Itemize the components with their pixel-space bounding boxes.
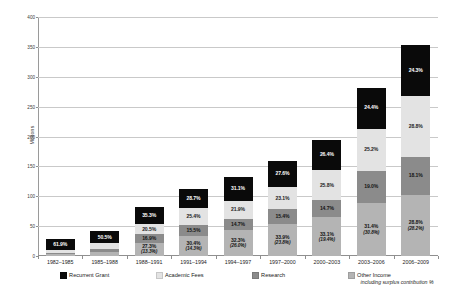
bar-segment-label: 33.1%(19.4%) (319, 232, 335, 242)
bar-segment-label: 28.7% (187, 196, 201, 201)
bar-segment[interactable]: 16.9% (135, 234, 164, 242)
page-artifact (268, 1, 408, 8)
x-axis-tick-mark (438, 256, 439, 259)
legend-item[interactable]: Research (252, 272, 285, 279)
bar-segment[interactable]: 27.3%(13.3%) (135, 243, 164, 256)
bar-segment-sublabel: (23.8%) (274, 240, 290, 245)
legend-swatch-icon (156, 272, 163, 279)
bar-segment-sublabel: (28.2%) (408, 226, 424, 231)
bar-segment-label: 30.4%(14.3%) (185, 241, 201, 251)
bar-segment-label: 27.3%(13.3%) (141, 244, 157, 254)
legend-item-sublabel: including surplus contribution % (361, 279, 434, 285)
bar-stack[interactable]: 33.9%(23.8%)15.4%23.1%27.6% (268, 161, 297, 256)
bar-segment-label: 25.8% (320, 183, 334, 188)
bar-segment-label: 14.7% (320, 206, 334, 211)
bar-stack[interactable]: 50.5% (90, 231, 119, 256)
bar-segment[interactable]: 26.4% (312, 140, 341, 171)
legend-item-label: Other Incomeincluding surplus contributi… (357, 272, 433, 285)
bar-segment[interactable] (46, 253, 75, 254)
bar-segment-label: 26.4% (320, 152, 334, 157)
y-axis-tick-label: 350 (27, 44, 35, 49)
bar-segment[interactable]: 18.1% (401, 157, 430, 195)
legend-item[interactable]: Other Incomeincluding surplus contributi… (348, 272, 434, 285)
bar-segment-sublabel: (13.3%) (141, 249, 157, 254)
bar-segment[interactable] (90, 243, 119, 249)
plot-area: Millions 050100150200250300350400 61.9%5… (38, 17, 438, 256)
bar-segment-label: 31.4%(30.8%) (363, 224, 379, 234)
bar-segment-label: 23.1% (275, 196, 289, 201)
bar-segment[interactable]: 27.6% (268, 161, 297, 187)
bar-segment[interactable]: 25.2% (357, 129, 386, 171)
bar-segment-label: 27.6% (275, 171, 289, 176)
bar-segment[interactable]: 25.4% (179, 208, 208, 225)
bar-stack[interactable]: 61.9% (46, 239, 75, 256)
legend-item-label: Research (261, 272, 285, 279)
x-axis-tick-label: 1994–1997 (216, 259, 260, 265)
legend-swatch-icon (252, 272, 259, 279)
bar-segment-sublabel: (30.8%) (363, 230, 379, 235)
bar-segment-label: 32.3%(26.0%) (230, 238, 246, 248)
bar-segment[interactable]: 20.5% (135, 224, 164, 234)
bar-segment[interactable]: 25.8% (312, 170, 341, 200)
bar-stack[interactable]: 32.3%(26.0%)14.7%21.9%31.1% (224, 177, 253, 257)
bar-stack[interactable]: 33.1%(19.4%)14.7%25.8%26.4% (312, 140, 341, 256)
x-axis-labels: 1982–19851985–19881988–19911991–19941994… (38, 259, 438, 270)
bar-segment-label: 20.5% (142, 227, 156, 232)
bar-segment-label: 16.9% (142, 236, 156, 241)
x-axis-tick-label: 2003–2006 (349, 259, 393, 265)
bar-segment-label: 15.4% (275, 214, 289, 219)
x-axis-tick-label: 1997–2000 (260, 259, 304, 265)
y-axis-tick-label: 50 (30, 224, 35, 229)
bar-segment-label: 25.2% (364, 147, 378, 152)
bar-stack[interactable]: 27.3%(13.3%)16.9%20.5%35.3% (135, 207, 164, 256)
bar-segment-label: 15.5% (187, 228, 201, 233)
bar-segment[interactable] (90, 249, 119, 252)
bar-segment-label: 28.8% (409, 124, 423, 129)
x-axis-tick-label: 1982–1985 (38, 259, 82, 265)
bar-segment[interactable] (46, 250, 75, 253)
bar-segment[interactable]: 23.1% (268, 187, 297, 209)
bar-stack[interactable]: 30.4%(14.3%)15.5%25.4%28.7% (179, 189, 208, 256)
legend-item[interactable]: Recurrent Grant (60, 272, 109, 279)
x-axis-tick-label: 2000–2003 (305, 259, 349, 265)
bar-segment-label: 24.3% (409, 68, 423, 73)
bar-segment[interactable]: 33.9%(23.8%) (268, 224, 297, 256)
bar-segment[interactable]: 24.4% (357, 88, 386, 129)
bar-segment[interactable]: 15.5% (179, 225, 208, 235)
bar-segment[interactable] (46, 254, 75, 256)
bar-segment[interactable]: 28.8%(28.2%) (401, 195, 430, 256)
bar-segment[interactable] (90, 252, 119, 256)
x-axis-tick-label: 1991–1994 (171, 259, 215, 265)
bar-segment[interactable]: 14.7% (312, 200, 341, 217)
bar-segment[interactable]: 28.7% (179, 189, 208, 208)
bar-stack[interactable]: 28.8%(28.2%)18.1%28.8%24.3% (401, 45, 430, 256)
bar-segment[interactable]: 24.3% (401, 45, 430, 96)
bar-segment[interactable]: 30.4%(14.3%) (179, 236, 208, 256)
bar-segment[interactable]: 35.3% (135, 207, 164, 224)
bar-segment[interactable]: 21.9% (224, 201, 253, 218)
bar-segment-sublabel: (26.0%) (230, 243, 246, 248)
bar-segment[interactable]: 32.3%(26.0%) (224, 230, 253, 256)
x-axis-tick-label: 1985–1988 (82, 259, 126, 265)
bar-segment[interactable]: 28.8% (401, 96, 430, 157)
bar-segment[interactable]: 50.5% (90, 231, 119, 244)
bar-segment[interactable]: 31.1% (224, 177, 253, 202)
bar-segment[interactable]: 14.7% (224, 219, 253, 231)
bar-segment[interactable]: 15.4% (268, 209, 297, 224)
y-axis-tick-label: 300 (27, 74, 35, 79)
bar-segment-label: 28.8%(28.2%) (408, 220, 424, 230)
bar-segment-label: 33.9%(23.8%) (274, 235, 290, 245)
bar-segment[interactable]: 31.4%(30.8%) (357, 203, 386, 256)
bar-segment[interactable]: 19.0% (357, 171, 386, 203)
y-axis-tick-label: 250 (27, 104, 35, 109)
bar-segment[interactable]: 61.9% (46, 239, 75, 249)
legend-item-label: Academic Fees (165, 272, 204, 279)
bar-segment-label: 24.4% (364, 105, 378, 110)
y-axis-tick-label: 100 (27, 194, 35, 199)
legend-item[interactable]: Academic Fees (156, 272, 204, 279)
bar-segment-label: 61.9% (53, 242, 67, 247)
bar-stack[interactable]: 31.4%(30.8%)19.0%25.2%24.4% (357, 88, 386, 256)
bar-segment-label: 35.3% (142, 213, 156, 218)
bar-segment[interactable]: 33.1%(19.4%) (312, 217, 341, 256)
y-axis-tick-label: 400 (27, 15, 35, 20)
